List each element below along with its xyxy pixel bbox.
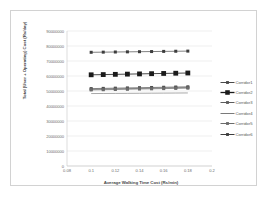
legend-item-corridor4[interactable]: Corridor4 — [220, 108, 268, 118]
series-marker — [186, 50, 189, 53]
x-tick-label: 0.08 — [63, 168, 71, 173]
chart-frame: Total (User + Operating) Cost (Rs/day) 0… — [10, 10, 257, 186]
legend-swatch-icon — [220, 130, 235, 139]
series-marker — [102, 88, 105, 91]
legend-label: Corridor4 — [236, 111, 253, 116]
legend-label: Corridor3 — [236, 100, 253, 105]
series-marker — [90, 51, 93, 54]
series-marker — [126, 50, 129, 53]
legend-swatch-icon — [220, 109, 235, 118]
x-tick-label: 0.18 — [184, 168, 192, 173]
legend-swatch-icon — [220, 98, 235, 107]
legend-swatch-icon — [220, 119, 235, 128]
y-tick-label: 10000000 — [46, 149, 64, 154]
legend-label: Corridor5 — [236, 121, 253, 126]
x-axis-title: Average Walking Time Cost (Rs/min) — [51, 180, 231, 185]
series-marker — [161, 71, 166, 76]
x-tick-label: 0.2 — [209, 168, 215, 173]
y-axis-tick-labels: 0100000002000000030000000400000005000000… — [27, 31, 64, 166]
series-marker — [114, 51, 117, 54]
series-line — [91, 93, 188, 94]
series-corridor6 — [90, 50, 190, 54]
series-marker — [150, 87, 153, 90]
y-tick-label: 30000000 — [46, 119, 64, 124]
legend-label: Corridor6 — [236, 132, 253, 137]
x-tick-label: 0.14 — [136, 168, 144, 173]
y-tick-label: 20000000 — [46, 134, 64, 139]
plot-svg — [67, 31, 212, 166]
x-tick-label: 0.12 — [111, 168, 119, 173]
legend-item-corridor2[interactable]: Corridor2 — [220, 87, 268, 97]
series-marker — [149, 71, 154, 76]
y-axis-title: Total (User + Operating) Cost (Rs/day) — [22, 2, 27, 120]
series-marker — [138, 88, 141, 91]
y-tick-label: 70000000 — [46, 59, 64, 64]
legend-label: Corridor2 — [236, 90, 253, 95]
legend-item-corridor1[interactable]: Corridor1 — [220, 77, 268, 87]
y-tick-label: 60000000 — [46, 74, 64, 79]
legend-swatch-icon — [220, 78, 235, 87]
y-tick-label: 40000000 — [46, 104, 64, 109]
y-tick-label: 90000000 — [46, 29, 64, 34]
series-marker — [125, 72, 130, 77]
legend-item-corridor6[interactable]: Corridor6 — [220, 129, 268, 139]
series-marker — [138, 50, 141, 53]
series-marker — [137, 72, 142, 77]
legend-item-corridor3[interactable]: Corridor3 — [220, 98, 268, 108]
series-marker — [162, 50, 165, 53]
series-marker — [150, 50, 153, 53]
series-marker — [162, 87, 165, 90]
series-marker — [174, 87, 177, 90]
x-tick-label: 0.16 — [160, 168, 168, 173]
chart-figure: Total (User + Operating) Cost (Rs/day) 0… — [0, 0, 269, 197]
series-marker — [174, 50, 177, 53]
y-tick-label: 80000000 — [46, 44, 64, 49]
legend-item-corridor5[interactable]: Corridor5 — [220, 119, 268, 129]
series-marker — [102, 51, 105, 54]
series-marker — [113, 72, 118, 77]
legend-label: Corridor1 — [236, 80, 253, 85]
plot-area — [67, 31, 212, 166]
series-corridor4 — [91, 93, 188, 94]
legend-swatch-icon — [220, 88, 235, 97]
series-marker — [101, 72, 106, 77]
series-marker — [89, 72, 94, 77]
x-tick-label: 0.1 — [88, 168, 94, 173]
series-marker — [186, 87, 189, 90]
y-tick-label: 50000000 — [46, 89, 64, 94]
x-axis-tick-labels: 0.080.10.120.140.160.180.2 — [67, 168, 212, 177]
series-marker — [173, 71, 178, 76]
series-marker — [90, 88, 93, 91]
series-marker — [185, 71, 190, 76]
chart-legend: Corridor1Corridor2Corridor3Corridor4Corr… — [220, 77, 268, 139]
series-marker — [114, 88, 117, 91]
series-marker — [126, 88, 129, 91]
